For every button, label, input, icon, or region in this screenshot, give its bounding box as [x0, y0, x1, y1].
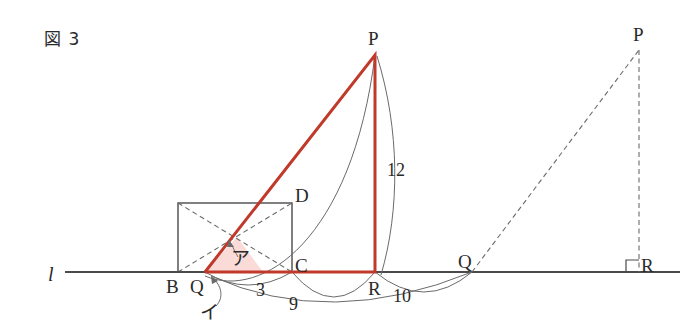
geometry-diagram [0, 0, 696, 334]
point-label-r-left: R [368, 279, 381, 298]
point-label-r-right: R [641, 256, 654, 275]
point-label-c: C [295, 256, 308, 275]
annotation-label-a: ア [231, 249, 250, 268]
measure-label-pr: 12 [387, 161, 405, 179]
point-label-q-right: Q [458, 252, 472, 271]
figure-container: 図 3 l B Q C D R P Q R P 3 9 10 12 ア イ [0, 0, 696, 334]
point-label-p-right: P [633, 25, 644, 44]
right-angle-marker [626, 260, 639, 272]
point-label-q-left: Q [190, 277, 204, 296]
measure-label-rq: 10 [393, 287, 411, 305]
line-label-l: l [48, 264, 54, 284]
measure-label-cr: 9 [289, 295, 298, 313]
measure-label-qc: 3 [256, 281, 265, 299]
annotation-label-i: イ [200, 303, 219, 322]
arc-locus-q-to-q2 [211, 272, 472, 302]
figure-caption: 図 3 [44, 25, 80, 50]
point-label-p-left: P [368, 29, 379, 48]
dashed-segment-q2-p2 [472, 50, 639, 272]
point-label-b: B [166, 277, 179, 296]
point-label-d: D [295, 186, 309, 205]
